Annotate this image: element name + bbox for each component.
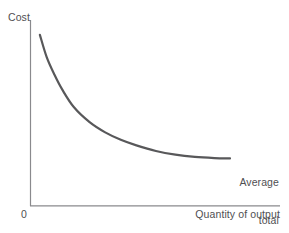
y-axis-label: Cost (8, 11, 30, 24)
average-total-cost-label: Average total cost (239, 151, 279, 233)
curve-label-line-2: total (239, 214, 279, 227)
average-total-cost-chart: Cost 0 Quantity of output Average total … (0, 0, 289, 233)
average-total-cost-curve (40, 35, 230, 159)
curve-label-line-1: Average (239, 176, 279, 189)
origin-label: 0 (21, 208, 27, 221)
